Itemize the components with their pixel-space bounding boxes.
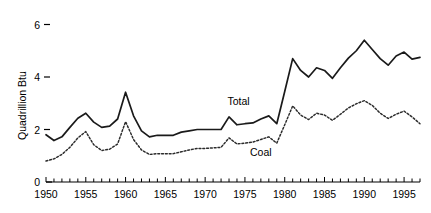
x-tick-label: 1955 [74,188,98,200]
line-chart: 0246 Quadrillion Btu 1950195519601965197… [0,0,431,213]
x-axis-ticks [46,177,420,182]
x-tick-label: 1950 [34,188,58,200]
x-tick-label: 1995 [392,188,416,200]
series-line-total [46,40,420,140]
x-tick-label: 1960 [114,188,138,200]
y-tick-label: 0 [34,176,40,188]
x-axis-tick-labels: 1950195519601965197019751980198519901995 [34,188,416,200]
x-tick-label: 1980 [273,188,297,200]
chart-container: 0246 Quadrillion Btu 1950195519601965197… [0,0,431,213]
y-tick-label: 4 [34,71,40,83]
series-label-total: Total [227,95,249,107]
x-tick-label: 1975 [233,188,257,200]
x-tick-label: 1965 [154,188,178,200]
y-axis-tick-labels: 0246 [34,19,40,189]
series-line-coal [46,101,420,161]
x-tick-label: 1970 [193,188,217,200]
x-tick-label: 1990 [353,188,377,200]
y-tick-label: 2 [34,124,40,136]
y-tick-label: 6 [34,19,40,31]
y-axis-ticks [44,25,52,183]
x-tick-label: 1985 [313,188,337,200]
y-axis-title: Quadrillion Btu [16,71,28,140]
series-label-coal: Coal [250,146,272,158]
